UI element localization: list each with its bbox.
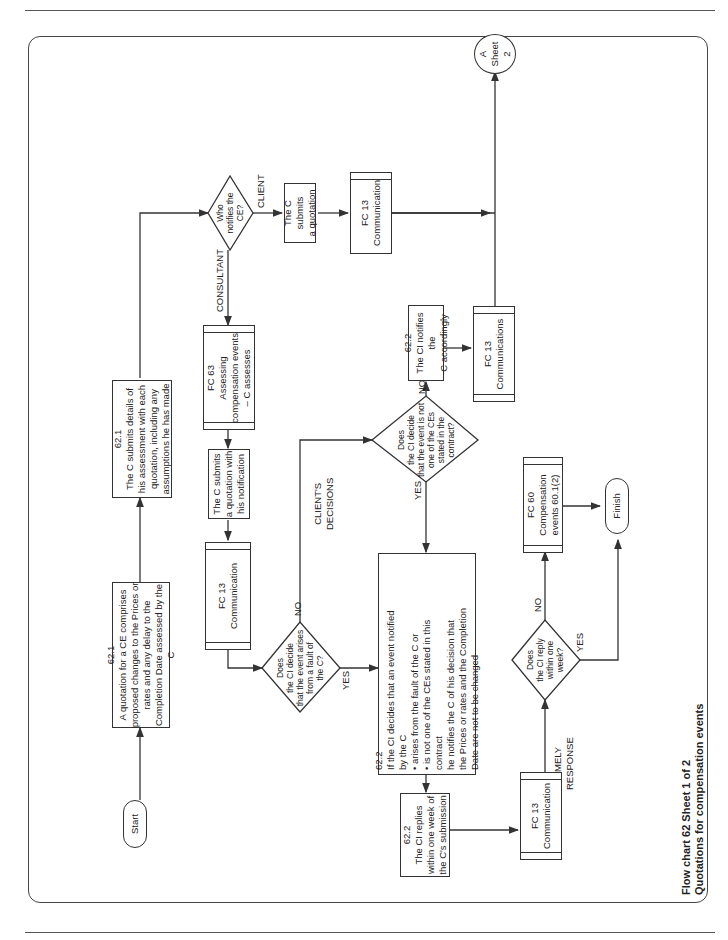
assessment-details-text: 62.1 The C submits details of his assess… — [112, 380, 172, 498]
fc13-reply-text: FC 13 Communication — [529, 774, 553, 858]
start-label: Start — [129, 814, 141, 834]
connector-a-sheet2: A Sheet 2 — [474, 34, 516, 74]
edge-label-no-1: NO — [292, 602, 304, 616]
c-submits-notification-text: The C submits a quotation with his notif… — [211, 449, 247, 519]
fc13-reply-box: FC 13 Communication — [520, 772, 562, 860]
section-label-clients-decisions: CLIENT'S DECISIONS — [312, 478, 336, 530]
quotation-definition-text: 62.1 A quotation for a CE comprises prop… — [105, 582, 177, 728]
edge-label-yes-3: YES — [574, 633, 586, 652]
figure-caption-line2: Quotations for compensation events — [693, 704, 706, 895]
replies-622-text: 62.2 The CI replies within one week of t… — [401, 793, 449, 877]
notify-accordingly-box: 62.2 The CI notifies the C accordingly — [408, 305, 444, 381]
fc63-box: FC 63 Assessing compensation events – C … — [203, 325, 255, 430]
fc13-communications-box: FC 13 Communications — [473, 306, 515, 402]
fc13-client-text: FC 13 Communication — [359, 172, 383, 254]
c-submits-notification-box: The C submits a quotation with his notif… — [208, 449, 250, 519]
connector-lines — [0, 0, 728, 940]
client-submits-text: The C submits a quotation — [282, 183, 318, 243]
decision-622-text: 62.2 If the CI decides that an event not… — [373, 558, 481, 770]
start-terminal: Start — [123, 800, 147, 848]
decide-not-ce-text: Does the CI decide that the event is not… — [396, 403, 456, 477]
fc60-text: FC 60 Compensation events 60.1(2) — [525, 460, 561, 550]
edge-label-no-3: NO — [532, 598, 544, 612]
who-notifies-text: Who notifies the CE? — [215, 192, 245, 233]
quotation-definition-box: 62.1 A quotation for a CE comprises prop… — [112, 582, 170, 728]
replies-622-box: 62.2 The CI replies within one week of t… — [400, 793, 450, 877]
notify-accordingly-text: 62.2 The CI notifies the C accordingly — [402, 305, 450, 381]
edge-label-yes-1: YES — [340, 671, 352, 690]
fc63-text: FC 63 Assessing compensation events – C … — [205, 328, 253, 428]
fc13-consultant-text: FC 13 Communication — [216, 546, 240, 646]
edge-label-no-2: NO — [416, 380, 428, 394]
edge-label-client: CLIENT — [255, 174, 267, 208]
client-submits-box: The C submits a quotation — [284, 183, 316, 243]
reply-within-week-text: Does the CI reply within one week? — [525, 638, 565, 681]
fc13-communications-text: FC 13 Communications — [482, 309, 506, 399]
decision-622-box: 62.2 If the CI decides that an event not… — [378, 553, 476, 775]
finish-label: Finish — [611, 493, 623, 518]
connector-a-text: A Sheet 2 — [477, 42, 513, 67]
assessment-details-box: 62.1 The C submits details of his assess… — [112, 380, 172, 498]
finish-terminal: Finish — [605, 478, 629, 534]
fc13-consultant-box: FC 13 Communication — [205, 542, 251, 650]
decide-fault-text: Does the CI decide that the event arises… — [275, 630, 325, 707]
figure-caption-line1: Flow chart 62 Sheet 1 of 2 — [680, 760, 693, 895]
edge-label-yes-2: YES — [412, 481, 424, 500]
fc60-box: FC 60 Compensation events 60.1(2) — [523, 457, 563, 553]
edge-label-consultant: CONSULTANT — [214, 249, 226, 312]
fc13-client-box: FC 13 Communication — [350, 172, 392, 254]
